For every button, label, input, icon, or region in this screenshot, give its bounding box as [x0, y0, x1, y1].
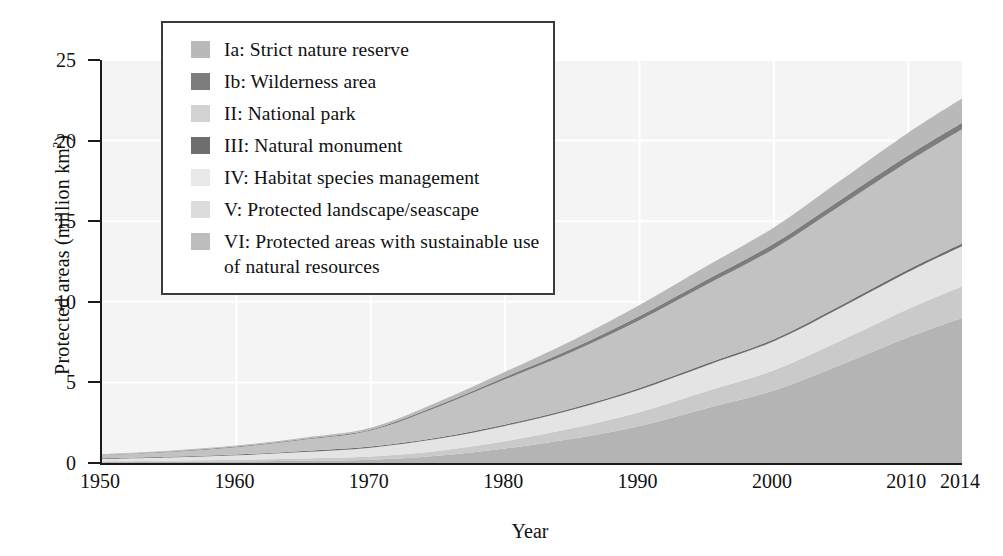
legend-swatch-icon [191, 169, 210, 186]
legend-swatch-icon [191, 201, 210, 218]
legend-swatch-icon [191, 41, 210, 58]
y-axis-tick-mark [88, 301, 100, 303]
y-axis-tick-label: 5 [22, 371, 76, 394]
x-axis-tick-label: 1970 [324, 470, 414, 493]
y-axis-tick-mark [88, 381, 100, 383]
legend-item-label: IV: Habitat species management [224, 165, 480, 190]
legend-item-label: Ia: Strict nature reserve [224, 37, 409, 62]
legend-swatch-icon [191, 73, 210, 90]
legend-swatch-icon [191, 233, 210, 250]
legend-item: III: Natural monument [175, 133, 541, 158]
y-axis-title-text: Protected areas (million km [51, 148, 73, 375]
legend-item: II: National park [175, 101, 541, 126]
legend-item: Ib: Wilderness area [175, 69, 541, 94]
y-axis-tick-mark [88, 59, 100, 61]
y-axis-tick-label: 15 [22, 210, 76, 233]
x-axis-tick-label: 2000 [727, 470, 817, 493]
legend-item: VI: Protected areas with sustainable use… [175, 229, 541, 279]
y-axis-tick-mark [88, 140, 100, 142]
x-axis-tick-label: 1950 [55, 470, 145, 493]
x-axis-title: Year [100, 520, 960, 543]
legend-item-label: VI: Protected areas with sustainable use… [224, 229, 541, 279]
y-axis-tick-label: 20 [22, 129, 76, 152]
x-axis-tick-label: 1990 [593, 470, 683, 493]
legend-item-label: Ib: Wilderness area [224, 69, 376, 94]
chart-legend: Ia: Strict nature reserveIb: Wilderness … [161, 21, 555, 295]
chart-figure: Protected areas (million km2) 0510152025… [0, 0, 1003, 556]
y-axis-tick-mark [88, 220, 100, 222]
legend-item: IV: Habitat species management [175, 165, 541, 190]
legend-swatch-icon [191, 105, 210, 122]
x-axis-tick-label: 1980 [458, 470, 548, 493]
legend-item: Ia: Strict nature reserve [175, 37, 541, 62]
x-axis-tick-label: 1960 [189, 470, 279, 493]
y-axis-tick-mark [88, 462, 100, 464]
y-axis-tick-label: 25 [22, 49, 76, 72]
legend-swatch-icon [191, 137, 210, 154]
legend-item-label: III: Natural monument [224, 133, 403, 158]
x-axis-tick-label: 2014 [915, 470, 1003, 493]
y-axis-tick-label: 10 [22, 290, 76, 313]
y-axis-title: Protected areas (million km2) [50, 45, 74, 465]
legend-item-label: II: National park [224, 101, 356, 126]
legend-item-label: V: Protected landscape/seascape [224, 197, 479, 222]
legend-item: V: Protected landscape/seascape [175, 197, 541, 222]
